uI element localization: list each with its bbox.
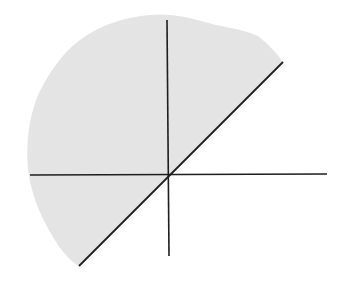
half-plane-diagram bbox=[0, 0, 346, 295]
x-axis bbox=[30, 174, 327, 175]
shaded-region bbox=[27, 14, 283, 266]
